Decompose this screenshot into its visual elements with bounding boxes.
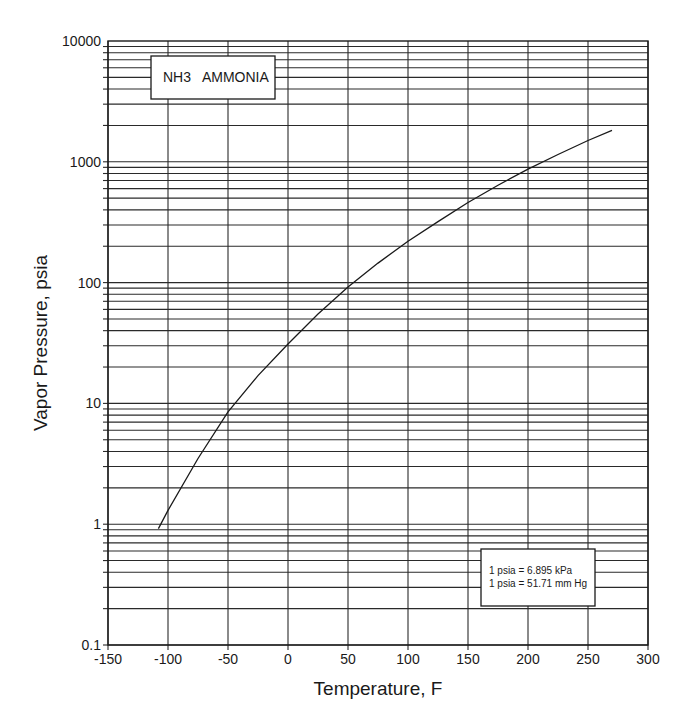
x-tick-label: 300 xyxy=(636,651,660,667)
vapor-pressure-curve xyxy=(158,130,612,528)
x-tick-label: 250 xyxy=(576,651,600,667)
vapor-pressure-chart: -150-100-50050100150200250300 0.11101001… xyxy=(0,0,697,720)
x-tick-label: 150 xyxy=(456,651,480,667)
x-tick-label: -100 xyxy=(154,651,182,667)
x-axis-title: Temperature, F xyxy=(314,678,443,699)
x-tick-label: -150 xyxy=(94,651,122,667)
x-tick-label: 200 xyxy=(516,651,540,667)
y-tick-label: 10000 xyxy=(62,33,101,49)
y-tick-label: 1000 xyxy=(70,154,101,170)
x-tick-labels: -150-100-50050100150200250300 xyxy=(94,651,660,667)
chart-title: NH3 AMMONIA xyxy=(163,69,269,85)
x-tick-label: 100 xyxy=(396,651,420,667)
x-tick-label: 0 xyxy=(284,651,292,667)
y-tick-label: 1 xyxy=(93,516,101,532)
conversion-note-box: 1 psia = 6.895 kPa 1 psia = 51.71 mm Hg xyxy=(481,549,595,606)
title-box: NH3 AMMONIA xyxy=(151,56,275,99)
x-tick-label: 50 xyxy=(340,651,356,667)
y-tick-labels: 0.1110100100010000 xyxy=(62,33,101,653)
y-tick-label: 100 xyxy=(78,275,102,291)
y-tick-label: 10 xyxy=(85,395,101,411)
y-tick-label: 0.1 xyxy=(82,637,102,653)
x-tick-label: -50 xyxy=(218,651,238,667)
conversion-note-kpa: 1 psia = 6.895 kPa xyxy=(489,565,573,576)
conversion-note-mmhg: 1 psia = 51.71 mm Hg xyxy=(489,578,587,589)
y-axis-title: Vapor Pressure, psia xyxy=(30,255,51,431)
